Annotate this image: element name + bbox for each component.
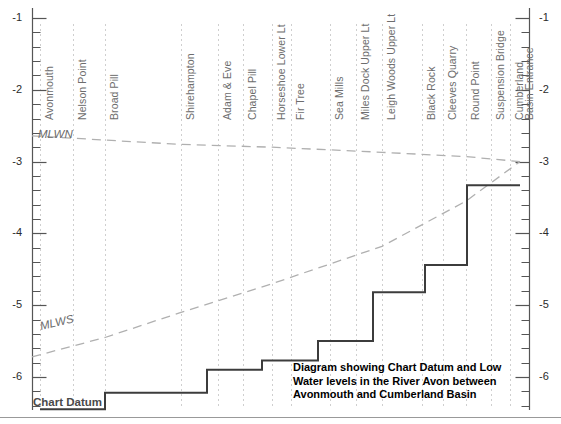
station-label: Horseshoe Lower Lt <box>276 24 287 120</box>
chart-datum-label: Chart Datum <box>33 396 102 408</box>
y-tick-label-right: -6 <box>539 371 561 382</box>
station-label: Basin Entrance <box>524 47 535 120</box>
y-tick-label-left: -3 <box>0 156 22 167</box>
chart-figure: -1-2-3-4-5-6 -1-2-3-4-5-6 AvonmouthNelso… <box>0 0 561 424</box>
caption-line-1: Diagram showing Chart Datum and Low <box>293 361 523 375</box>
y-tick-label-left: -1 <box>0 12 22 23</box>
station-label: Broad Pill <box>109 74 120 120</box>
station-label: Avonmouth <box>44 66 55 120</box>
station-label: Miles Dock Upper Lt <box>360 24 371 120</box>
y-tick-label-left: -5 <box>0 299 22 310</box>
y-tick-label-left: -4 <box>0 227 22 238</box>
station-label: Sea Mills <box>334 77 345 121</box>
station-label: Adam & Eve <box>222 61 233 120</box>
y-tick-label-right: -4 <box>539 227 561 238</box>
station-label: Cleeves Quarry <box>447 46 458 120</box>
y-tick-label-left: -2 <box>0 84 22 95</box>
y-tick-label-right: -5 <box>539 299 561 310</box>
station-label: Black Rock <box>426 66 437 120</box>
station-label: Suspension Bridge <box>495 30 506 120</box>
y-tick-label-right: -1 <box>539 12 561 23</box>
caption-line-2: Water levels in the River Avon between <box>293 375 523 389</box>
y-tick-label-right: -3 <box>539 156 561 167</box>
mlwn-curve-label: MLWN <box>38 128 73 140</box>
station-label: Nelson Point <box>77 59 88 120</box>
station-label: Fir Tree <box>295 83 306 120</box>
station-label: Leigh Woods Upper Lt <box>386 14 397 120</box>
y-tick-label-left: -6 <box>0 371 22 382</box>
station-label: Chapel Pill <box>247 69 258 120</box>
chart-caption: Diagram showing Chart Datum and Low Wate… <box>293 361 523 402</box>
y-tick-label-right: -2 <box>539 84 561 95</box>
caption-line-3: Avonmouth and Cumberland Basin <box>293 388 523 402</box>
station-label: Shirehampton <box>185 53 196 120</box>
station-label: Round Point <box>470 61 481 120</box>
